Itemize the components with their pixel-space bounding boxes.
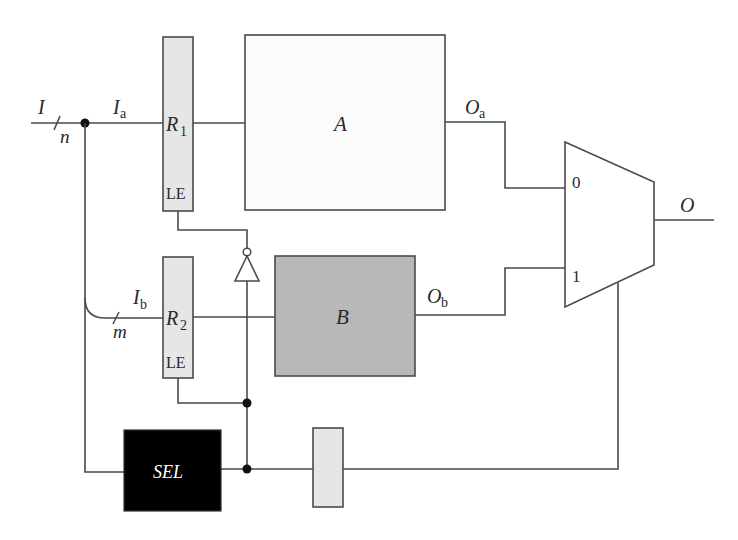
label-O: O bbox=[680, 194, 694, 216]
label-B: B bbox=[336, 305, 349, 329]
label-R1: R bbox=[165, 113, 178, 135]
label-m: m bbox=[113, 321, 127, 342]
label-R1-LE: LE bbox=[166, 185, 186, 202]
label-SEL: SEL bbox=[153, 462, 183, 482]
label-R2-LE: LE bbox=[166, 354, 186, 371]
label-Ia-sub: a bbox=[120, 106, 127, 121]
junction-dot-sel bbox=[243, 465, 252, 474]
junction-dot-le bbox=[243, 399, 252, 408]
wire-Oa-to-mux bbox=[445, 122, 565, 188]
label-Oa-sub: a bbox=[479, 106, 486, 121]
register-select bbox=[313, 428, 343, 507]
circuit-diagram: I n I a I b m R 1 LE R 2 LE A B SEL O a … bbox=[0, 0, 738, 540]
label-R1-sub: 1 bbox=[180, 124, 187, 139]
label-A: A bbox=[332, 112, 347, 136]
label-I: I bbox=[37, 96, 46, 118]
label-Ib-sub: b bbox=[140, 297, 147, 312]
label-n: n bbox=[60, 126, 70, 147]
label-R2-sub: 2 bbox=[180, 318, 187, 333]
inverter-icon bbox=[235, 248, 259, 281]
wire-R1-LE bbox=[178, 211, 247, 248]
wire-Ib bbox=[85, 298, 163, 318]
label-mux-1: 1 bbox=[572, 267, 581, 286]
wire-input-to-sel bbox=[85, 123, 124, 472]
label-Ob-sub: b bbox=[441, 295, 448, 310]
label-R2: R bbox=[165, 307, 178, 329]
label-Ob: O bbox=[427, 285, 441, 307]
label-Oa: O bbox=[465, 96, 479, 118]
label-mux-0: 0 bbox=[572, 173, 581, 192]
wire-R2-LE bbox=[178, 378, 247, 403]
